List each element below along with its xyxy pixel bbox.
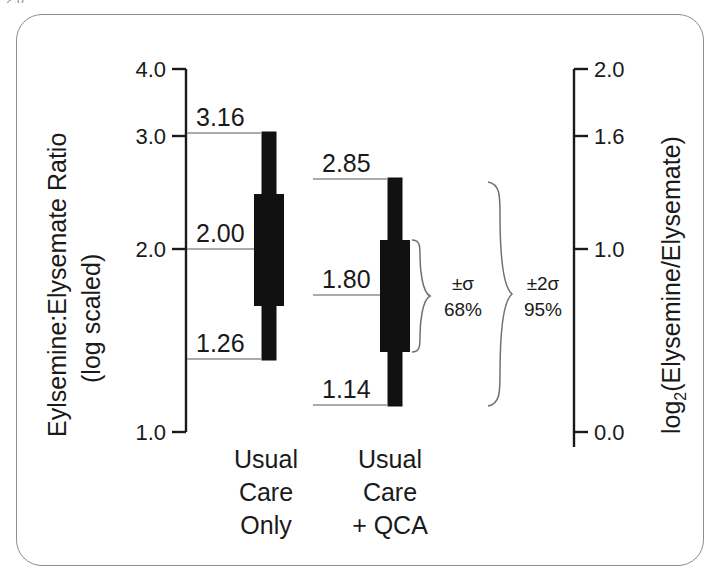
category-label-usual-care-plus-qca: Usual Care + QCA: [352, 445, 428, 539]
right-axis: 2.0 1.6 1.0 0.0: [574, 57, 625, 447]
annotation-brace-1sigma: ±σ 68%: [412, 240, 482, 352]
left-tick-label-4: 4.0: [135, 57, 166, 82]
left-axis: 4.0 3.0 2.0 1.0: [135, 57, 186, 445]
right-tick-label-0p0: 0.0: [594, 420, 625, 445]
value-label-series-2-mean: 1.80: [322, 265, 371, 293]
box-body-series-2: [380, 240, 410, 352]
right-axis-title-subscript: 2: [672, 392, 689, 401]
left-axis-title-group: Eylsemine:Elysemate Ratio (log scaled): [43, 133, 105, 437]
right-axis-title-log: log: [657, 401, 685, 434]
value-label-series-1-lower: 1.26: [196, 329, 245, 357]
annotation-1sigma-line2: 68%: [444, 299, 482, 320]
category-2-line-3: + QCA: [352, 511, 428, 539]
left-tick-label-1: 1.0: [135, 420, 166, 445]
right-tick-label-1p6: 1.6: [594, 124, 625, 149]
brace-shape-2sigma: [488, 182, 512, 406]
right-tick-label-1p0: 1.0: [594, 237, 625, 262]
category-1-line-1: Usual: [234, 445, 298, 473]
category-label-usual-care-only: Usual Care Only: [234, 445, 298, 539]
category-1-line-2: Care: [239, 478, 293, 506]
series-usual-care-only: 3.16 2.00 1.26: [187, 103, 284, 360]
right-axis-title-group: log2(Elysemine/Elysemate): [657, 136, 689, 434]
value-label-series-2-lower: 1.14: [322, 375, 371, 403]
left-tick-label-3: 3.0: [135, 124, 166, 149]
annotation-2sigma-line1: ±2σ: [527, 273, 560, 294]
right-tick-label-2p0: 2.0: [594, 57, 625, 82]
chart-svg: 4.0 3.0 2.0 1.0 Eylsemine:Elysemate Rati…: [0, 0, 721, 582]
value-label-series-2-upper: 2.85: [322, 149, 371, 177]
annotation-1sigma-line1: ±σ: [452, 273, 474, 294]
left-axis-title: Eylsemine:Elysemate Ratio: [43, 133, 71, 437]
left-tick-label-2: 2.0: [135, 237, 166, 262]
category-1-line-3: Only: [240, 511, 292, 539]
annotation-brace-2sigma: ±2σ 95%: [488, 182, 562, 406]
category-2-line-1: Usual: [358, 445, 422, 473]
box-body-series-1: [254, 194, 284, 306]
figure-container: 2.0 4.0 3.0 2.0 1.0 Eylsemine:Elysemate …: [0, 0, 721, 582]
right-axis-title-rest: (Elysemine/Elysemate): [657, 136, 685, 392]
series-usual-care-plus-qca: 2.85 1.80 1.14: [313, 149, 410, 406]
annotation-2sigma-line2: 95%: [524, 299, 562, 320]
value-label-series-1-mean: 2.00: [196, 219, 245, 247]
brace-shape-1sigma: [412, 240, 430, 352]
right-axis-title: log2(Elysemine/Elysemate): [657, 136, 689, 434]
value-label-series-1-upper: 3.16: [196, 103, 245, 131]
left-axis-title-line2: (log scaled): [77, 254, 105, 383]
category-2-line-2: Care: [363, 478, 417, 506]
